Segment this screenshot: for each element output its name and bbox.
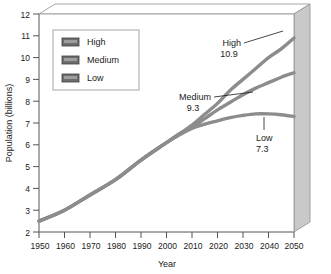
legend-swatch-high-highlight	[64, 40, 77, 43]
legend-label-high: High	[87, 37, 106, 47]
y-tick-label-12: 12	[21, 10, 31, 20]
y-tick-label-4: 4	[25, 184, 30, 194]
x-tick-label-2030: 2030	[235, 241, 254, 251]
annotation-low-value: 7.3	[256, 144, 269, 154]
x-tick-label-1960: 1960	[56, 241, 75, 251]
y-tick-label-11: 11	[21, 31, 30, 41]
x-tick-label-2000: 2000	[158, 241, 177, 251]
population-projection-chart: 12 11 10 9 8 7 6 5 4 3 2 1950 1960 1970 …	[0, 0, 331, 274]
y-tick-label-3: 3	[25, 206, 30, 216]
y-axis-ticks	[33, 14, 39, 232]
legend-swatch-medium-highlight	[64, 58, 77, 61]
x-tick-label-1990: 1990	[133, 241, 152, 251]
x-tick-label-1980: 1980	[107, 241, 126, 251]
y-tick-label-9: 9	[25, 75, 30, 85]
x-tick-label-1970: 1970	[82, 241, 101, 251]
legend: High Medium Low	[53, 30, 139, 90]
y-tick-label-5: 5	[25, 162, 30, 172]
annotation-low-label: Low	[256, 133, 273, 143]
x-tick-label-2020: 2020	[209, 241, 228, 251]
x-tick-label-1950: 1950	[31, 241, 50, 251]
x-tick-label-2010: 2010	[184, 241, 203, 251]
y-axis-title: Population (billions)	[4, 84, 14, 163]
annotation-medium-value: 9.3	[187, 103, 200, 113]
annotation-high-value: 10.9	[220, 49, 238, 59]
y-tick-label-10: 10	[21, 53, 31, 63]
y-tick-label-8: 8	[25, 97, 30, 107]
frame-top-face	[39, 4, 310, 14]
chart-canvas: 12 11 10 9 8 7 6 5 4 3 2 1950 1960 1970 …	[0, 0, 331, 274]
annotation-medium-label: Medium	[179, 92, 211, 102]
legend-label-medium: Medium	[87, 55, 119, 65]
y-tick-label-7: 7	[25, 119, 30, 129]
x-tick-label-2050: 2050	[285, 241, 304, 251]
annotation-high-label: High	[222, 38, 241, 48]
x-tick-label-2040: 2040	[260, 241, 279, 251]
y-tick-label-6: 6	[25, 140, 30, 150]
legend-swatch-low-highlight	[64, 76, 77, 79]
x-axis-ticks	[39, 232, 294, 238]
frame-right-face	[294, 4, 310, 232]
x-axis-title: Year	[158, 259, 176, 269]
legend-label-low: Low	[87, 73, 104, 83]
y-tick-label-2: 2	[25, 228, 30, 238]
